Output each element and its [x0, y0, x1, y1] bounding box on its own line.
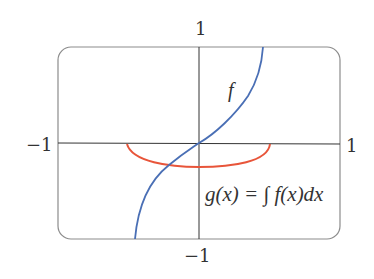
f-label: f — [228, 80, 234, 100]
x-max-label: 1 — [346, 137, 357, 155]
x-min-label: −1 — [26, 136, 53, 154]
y-max-label: 1 — [195, 20, 206, 38]
y-min-label: −1 — [184, 247, 211, 265]
g-formula-label: g(x) = ∫ f(x)dx — [205, 182, 323, 207]
plot-canvas — [0, 0, 374, 279]
